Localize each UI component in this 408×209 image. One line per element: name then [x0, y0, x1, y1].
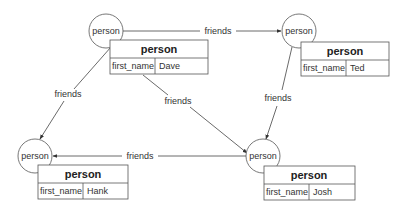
field-value: Ted	[350, 63, 365, 73]
property-table: person first_name Dave	[110, 40, 208, 74]
table-title: person	[65, 168, 102, 180]
node-hank[interactable]: person person first_name Hank	[18, 139, 128, 199]
graph-diagram: friends friends friends friends friends …	[0, 0, 408, 209]
edge-label: friends	[204, 26, 232, 36]
edge-label: friends	[54, 89, 82, 99]
edge-dave-ted[interactable]: friends	[123, 26, 281, 36]
edge-label: friends	[126, 151, 154, 161]
edge-dave-josh[interactable]: friends	[143, 75, 247, 153]
property-table: person first_name Ted	[301, 42, 389, 76]
field-value: Dave	[159, 61, 180, 71]
field-value: Hank	[87, 186, 109, 196]
edge-josh-hank[interactable]: friends	[53, 151, 246, 161]
property-table: person first_name Josh	[264, 166, 355, 200]
node-label: person	[92, 26, 120, 36]
field-name: first_name	[112, 61, 154, 71]
field-name: first_name	[40, 186, 82, 196]
field-name: first_name	[303, 63, 345, 73]
table-title: person	[327, 45, 364, 57]
edge-label: friends	[164, 96, 192, 106]
node-dave[interactable]: person person first_name Dave	[89, 14, 208, 74]
node-ted[interactable]: person person first_name Ted	[282, 14, 389, 76]
field-value: Josh	[313, 187, 332, 197]
property-table: person first_name Hank	[38, 165, 128, 199]
node-josh[interactable]: person person first_name Josh	[246, 139, 355, 200]
node-label: person	[21, 151, 49, 161]
node-label: person	[249, 151, 277, 161]
table-title: person	[291, 169, 328, 181]
table-title: person	[141, 43, 178, 55]
edge-ted-josh[interactable]: friends	[264, 47, 292, 139]
field-name: first_name	[266, 187, 308, 197]
edge-label: friends	[264, 93, 292, 103]
node-label: person	[285, 26, 313, 36]
edge-dave-hank[interactable]: friends	[40, 47, 111, 139]
